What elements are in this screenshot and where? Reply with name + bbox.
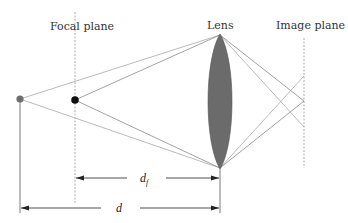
focal-point	[71, 96, 79, 104]
far-point-rays	[20, 35, 304, 168]
df-label: df	[140, 171, 150, 187]
lens-shape	[208, 34, 232, 169]
d-label: d	[116, 201, 123, 215]
focal-point-rays	[75, 35, 304, 168]
far-point	[16, 95, 23, 102]
depth-of-field-diagram: df d Focal plane Lens Image plane	[0, 0, 348, 223]
image-plane-label: Image plane	[276, 19, 345, 32]
lens-label: Lens	[207, 19, 234, 32]
focal-plane-label: Focal plane	[50, 20, 114, 33]
